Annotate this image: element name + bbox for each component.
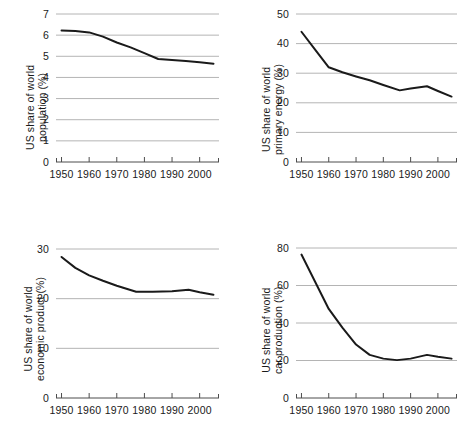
y-tick-label: 30 (37, 243, 49, 255)
chart-panel-economic-product: US share of world economic product (%) 0… (0, 211, 237, 428)
x-tick-label: 1980 (132, 168, 156, 180)
y-tick-label: 80 (277, 242, 289, 254)
x-tick-label: 1980 (132, 404, 156, 416)
x-tick-label: 1950 (49, 168, 73, 180)
y-axis-label-economic-product: US share of world economic product (%) (22, 277, 46, 381)
x-tick-label: 1970 (344, 404, 368, 416)
x-tick-label: 1970 (344, 168, 368, 180)
y-axis-label-line2: economic product (%) (34, 277, 46, 381)
data-series-line (301, 255, 451, 361)
y-tick-label: 0 (43, 392, 49, 404)
x-tick-label: 1950 (289, 404, 313, 416)
y-tick-label: 7 (43, 8, 49, 20)
y-axis-label-line2: population (%) (36, 65, 48, 150)
x-tick-label: 1990 (160, 404, 184, 416)
data-series-line (62, 257, 214, 295)
y-axis-label-line2: car production (%) (272, 286, 284, 374)
y-tick-label: 0 (43, 156, 49, 168)
y-axis-label-line1: US share of world (22, 277, 34, 381)
y-tick-label: 0 (283, 392, 289, 404)
chart-panel-population: US share of world population (%) 0123456… (0, 0, 237, 217)
y-axis-label-line2: primary energy (%) (272, 64, 284, 155)
x-tick-label: 1960 (77, 168, 101, 180)
x-tick-label: 1990 (399, 404, 423, 416)
x-tick-label: 2000 (188, 404, 212, 416)
y-tick-label: 0 (283, 156, 289, 168)
x-tick-label: 1980 (371, 404, 395, 416)
x-tick-label: 2000 (426, 404, 450, 416)
x-tick-label: 1950 (289, 168, 313, 180)
x-tick-label: 1980 (371, 168, 395, 180)
chart-panel-car-production: US share of world car production (%) 020… (238, 211, 475, 428)
x-tick-label: 1960 (317, 404, 341, 416)
x-tick-label: 1990 (399, 168, 423, 180)
x-tick-label: 1950 (49, 404, 73, 416)
y-axis-label-line1: US share of world (24, 65, 36, 150)
chart-panel-primary-energy: US share of world primary energy (%) 010… (238, 0, 475, 217)
data-series-line (301, 32, 451, 97)
y-axis-label-car-production: US share of world car production (%) (260, 286, 284, 374)
y-axis-label-primary-energy: US share of world primary energy (%) (260, 64, 284, 155)
x-tick-label: 2000 (426, 168, 450, 180)
chart-grid: US share of world population (%) 0123456… (0, 0, 475, 434)
y-axis-label-line1: US share of world (260, 64, 272, 155)
y-axis-label-population: US share of world population (%) (24, 65, 48, 150)
y-tick-label: 5 (43, 50, 49, 62)
x-tick-label: 2000 (188, 168, 212, 180)
x-tick-label: 1990 (160, 168, 184, 180)
y-tick-label: 6 (43, 29, 49, 41)
y-tick-label: 50 (277, 8, 289, 20)
x-tick-label: 1960 (77, 404, 101, 416)
x-tick-label: 1970 (105, 168, 129, 180)
x-tick-label: 1970 (105, 404, 129, 416)
y-tick-label: 40 (277, 37, 289, 49)
x-tick-label: 1960 (317, 168, 341, 180)
y-axis-label-line1: US share of world (260, 286, 272, 374)
